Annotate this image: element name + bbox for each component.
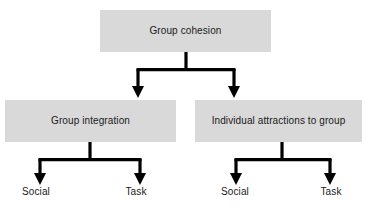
leaf-label-integration-social: Social	[22, 186, 50, 198]
node-label-group-integration: Group integration	[51, 115, 130, 127]
arrowhead-integration-to-task	[134, 173, 146, 185]
group-cohesion-diagram: Group cohesion Group integration Individ…	[0, 0, 368, 213]
leaf-label-attractions-task: Task	[321, 186, 342, 198]
node-label-group-cohesion: Group cohesion	[149, 25, 221, 37]
arrowhead-attractions-to-task	[324, 173, 336, 185]
node-box-individual-attractions-to-group: Individual attractions to group	[195, 100, 362, 142]
leaf-label-attractions-social: Social	[221, 186, 249, 198]
arrowhead-attractions-to-social	[230, 173, 242, 185]
node-box-group-cohesion: Group cohesion	[100, 10, 271, 52]
leaf-label-integration-task: Task	[126, 186, 147, 198]
node-label-individual-attractions-to-group: Individual attractions to group	[212, 115, 346, 127]
arrowhead-integration-to-social	[34, 173, 46, 185]
node-box-group-integration: Group integration	[5, 100, 176, 142]
arrowhead-root-to-integration	[132, 86, 144, 98]
arrowhead-root-to-attractions	[228, 86, 240, 98]
